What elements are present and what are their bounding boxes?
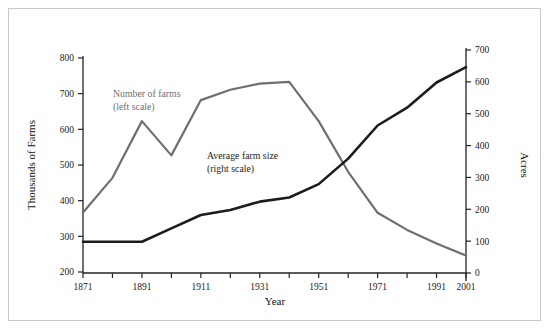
right-tick-label: 500 [475, 109, 490, 119]
x-tick-label: 1911 [192, 282, 211, 292]
x-axis-tick-labels: 18711891191119311951197119912001 [74, 282, 476, 292]
x-axis-ticks [83, 273, 466, 278]
left-axis-title: Thousands of Farms [25, 120, 37, 210]
right-axis-ticks [466, 50, 471, 273]
x-tick-label: 1931 [250, 282, 269, 292]
left-tick-label: 400 [60, 196, 75, 206]
left-tick-label: 800 [60, 53, 75, 63]
left-axis-tick-labels: 200300400500600700800 [60, 53, 75, 277]
annotation-average-farm-size-line1: Average farm size [207, 150, 279, 161]
right-tick-label: 200 [475, 205, 490, 215]
annotation-number-of-farms-line1: Number of farms [113, 88, 181, 99]
chart-figure: 200300400500600700800 010020030040050060… [0, 0, 549, 329]
right-tick-label: 300 [475, 173, 490, 183]
x-tick-label: 1951 [309, 282, 328, 292]
right-tick-label: 400 [475, 141, 490, 151]
left-axis-ticks [78, 58, 83, 272]
x-tick-label: 1871 [74, 282, 93, 292]
left-tick-label: 500 [60, 160, 75, 170]
annotation-average-farm-size-line2: (right scale) [207, 163, 254, 175]
right-tick-label: 0 [475, 268, 480, 278]
right-tick-label: 600 [475, 77, 490, 87]
left-tick-label: 300 [60, 232, 75, 242]
x-tick-label: 1971 [368, 282, 387, 292]
left-tick-label: 600 [60, 125, 75, 135]
x-tick-label: 1991 [427, 282, 446, 292]
right-tick-label: 700 [475, 45, 490, 55]
left-tick-label: 200 [60, 267, 75, 277]
right-tick-label: 100 [475, 237, 490, 247]
annotation-number-of-farms-line2: (left scale) [113, 101, 155, 113]
chart-plot-area: 200300400500600700800 010020030040050060… [0, 0, 549, 329]
right-axis-tick-labels: 0100200300400500600700 [475, 45, 490, 278]
left-tick-label: 700 [60, 89, 75, 99]
x-axis-title: Year [265, 295, 286, 307]
x-tick-label: 1891 [132, 282, 151, 292]
right-axis-title: Acres [519, 152, 531, 178]
x-tick-label: 2001 [457, 282, 476, 292]
